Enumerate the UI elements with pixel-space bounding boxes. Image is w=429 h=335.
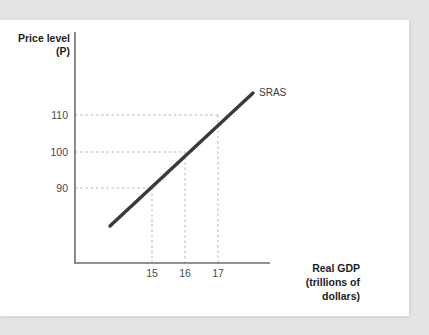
y-tick-label-110: 110 [51, 109, 68, 121]
figure-card: 110 100 90 15 16 17 Price level (P) Real… [0, 20, 409, 316]
y-tick-label-100: 100 [50, 146, 68, 158]
x-tick-label-17: 17 [212, 267, 224, 279]
x-axis-title-line1: Real GDP [312, 262, 360, 274]
y-tick-label-90: 90 [56, 182, 68, 194]
sras-curve [110, 93, 253, 226]
sras-chart: 110 100 90 15 16 17 Price level (P) Real… [0, 20, 409, 316]
plot-area: 110 100 90 15 16 17 Price level (P) Real… [0, 20, 409, 316]
x-tick-label-15: 15 [146, 267, 158, 279]
x-tick-label-16: 16 [179, 267, 191, 279]
y-axis-title-line1: Price level [18, 32, 70, 44]
figure-root: 110 100 90 15 16 17 Price level (P) Real… [0, 0, 429, 335]
x-axis-title-line2: (trillions of [306, 276, 361, 288]
x-axis-title-line3: dollars) [322, 290, 360, 302]
sras-curve-label: SRAS [259, 87, 287, 98]
y-axis-title-line2: (P) [56, 45, 70, 57]
